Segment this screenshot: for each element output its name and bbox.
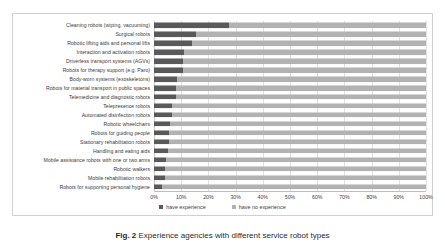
x-axis-ticks: 0%10%20%30%40%50%60%70%80%90%100% (154, 193, 426, 203)
plot-area: Cleaning robots (wiping, vacuuming)Surgi… (13, 14, 432, 215)
x-tick-label: 10% (176, 193, 186, 201)
stacked-bar (154, 23, 426, 28)
bar-row: Mobile rehabilitation robots (13, 173, 432, 182)
bar-segment-have-no-experience (196, 32, 426, 37)
category-label: Stationary rehabilitation robots (13, 139, 154, 145)
bar-row: Robots for therapy support (e.g. Paro) (13, 66, 432, 75)
bar-row: Surgical robots (13, 30, 432, 39)
stacked-bar (154, 76, 426, 81)
bar-row: Robotic wheelchairs (13, 119, 432, 128)
stacked-bar (154, 41, 426, 46)
bar-segment-have-no-experience (183, 68, 426, 73)
category-label: Surgical robots (13, 31, 154, 37)
legend-label: have experience (166, 204, 206, 210)
stacked-bar (154, 50, 426, 55)
bar-row: Robots for supporting personal hygiene (13, 182, 432, 191)
x-tick-label: 60% (312, 193, 322, 201)
bar-track (154, 84, 432, 93)
category-label: Robotic walkers (13, 166, 154, 172)
category-label: Telepresence robots (13, 103, 154, 109)
category-label: Robots for supporting personal hygiene (13, 184, 154, 190)
bar-track (154, 111, 432, 120)
stacked-bar (154, 148, 426, 153)
stacked-bar (154, 130, 426, 135)
x-tick-label: 90% (394, 193, 404, 201)
bar-segment-have-experience (154, 184, 162, 189)
bar-track (154, 57, 432, 66)
stacked-bar (154, 175, 426, 180)
stacked-bar (154, 85, 426, 90)
stacked-bar (154, 157, 426, 162)
stacked-bar (154, 103, 426, 108)
bar-segment-have-experience (154, 41, 192, 46)
legend-swatch-icon (159, 205, 163, 209)
x-tick-label: 0% (150, 193, 158, 201)
bar-segment-have-no-experience (184, 50, 426, 55)
bar-segment-have-no-experience (169, 130, 426, 135)
figure-caption: Fig. 2 Experience agencies with differen… (0, 231, 445, 241)
bar-segment-have-experience (154, 175, 165, 180)
bar-segment-have-experience (154, 68, 183, 73)
bar-segment-have-no-experience (192, 41, 426, 46)
category-label: Telemedicine and diagnostic robots (13, 94, 154, 100)
bar-row: Automated disinfection robots (13, 111, 432, 120)
bar-segment-have-no-experience (183, 59, 426, 64)
stacked-bar (154, 184, 426, 189)
stacked-bar (154, 59, 426, 64)
bar-segment-have-no-experience (176, 85, 426, 90)
bar-segment-have-no-experience (172, 112, 426, 117)
stacked-bar (154, 32, 426, 37)
bar-segment-have-experience (154, 85, 176, 90)
x-tick-label: 50% (285, 193, 295, 201)
category-label: Robots for guiding people (13, 130, 154, 136)
bar-segment-have-experience (154, 112, 172, 117)
bar-segment-have-experience (154, 76, 177, 81)
bar-rows: Cleaning robots (wiping, vacuuming)Surgi… (13, 21, 432, 191)
stacked-bar (154, 68, 426, 73)
bar-segment-have-experience (154, 59, 183, 64)
bar-row: Robotic lifting aids and personal lifts (13, 39, 432, 48)
bar-track (154, 173, 432, 182)
bar-segment-have-experience (154, 166, 165, 171)
x-axis-line (154, 191, 426, 192)
bar-segment-have-no-experience (229, 23, 426, 28)
bar-row: Body-worn systems (exoskeletons) (13, 75, 432, 84)
bar-segment-have-no-experience (162, 184, 426, 189)
bar-track (154, 155, 432, 164)
bar-segment-have-no-experience (170, 121, 426, 126)
stacked-bar (154, 121, 426, 126)
bar-segment-have-no-experience (177, 76, 426, 81)
category-label: Mobile assistance robots with one or two… (13, 157, 154, 163)
category-label: Robots for material transport in public … (13, 85, 154, 91)
caption-label: Fig. 2 (115, 231, 136, 240)
bar-segment-have-experience (154, 94, 176, 99)
legend-item-experience[interactable]: have experience (159, 204, 206, 210)
bar-segment-have-experience (154, 139, 169, 144)
bar-track (154, 128, 432, 137)
bar-track (154, 137, 432, 146)
bar-row: Driverless transport systems (AGVs) (13, 57, 432, 66)
bar-segment-have-no-experience (168, 148, 426, 153)
category-label: Robots for therapy support (e.g. Paro) (13, 67, 154, 73)
category-label: Automated disinfection robots (13, 112, 154, 118)
bar-track (154, 102, 432, 111)
bar-segment-have-no-experience (165, 166, 426, 171)
bar-segment-have-no-experience (176, 94, 426, 99)
category-label: Robotic wheelchairs (13, 121, 154, 127)
bar-segment-have-experience (154, 32, 196, 37)
bar-track (154, 119, 432, 128)
bar-segment-have-experience (154, 23, 229, 28)
category-label: Driverless transport systems (AGVs) (13, 58, 154, 64)
bar-segment-have-no-experience (172, 103, 426, 108)
bar-row: Handling and eating aids (13, 146, 432, 155)
bar-row: Robotic walkers (13, 164, 432, 173)
bar-track (154, 146, 432, 155)
stacked-bar (154, 139, 426, 144)
legend-item-no_experience[interactable]: have no experience (232, 204, 286, 210)
bar-track (154, 30, 432, 39)
bar-segment-have-no-experience (165, 175, 426, 180)
bar-segment-have-experience (154, 103, 172, 108)
bar-track (154, 66, 432, 75)
chart-panel: Cleaning robots (wiping, vacuuming)Surgi… (12, 13, 433, 216)
bar-track (154, 164, 432, 173)
